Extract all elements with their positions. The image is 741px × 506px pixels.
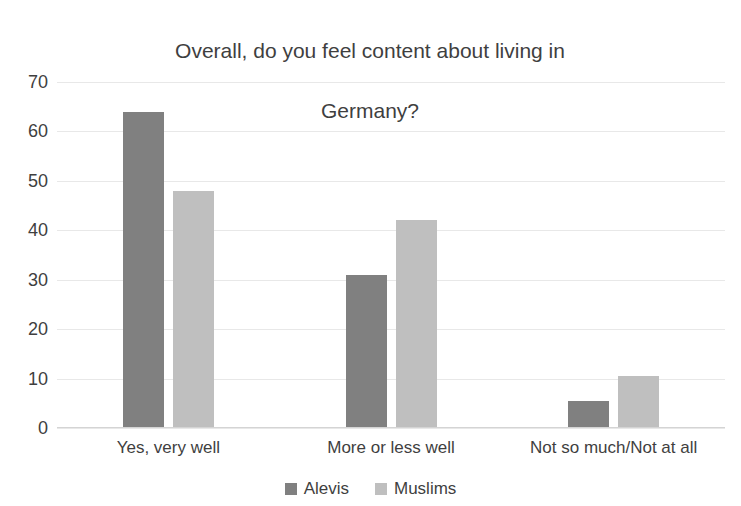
legend-swatch-icon [375,483,387,495]
y-axis-tick-label: 30 [8,271,48,289]
legend: AlevisMuslims [0,480,741,498]
y-axis-tick-label: 60 [8,122,48,140]
legend-item-muslims[interactable]: Muslims [375,480,456,498]
x-axis-line [57,427,725,428]
x-axis-label-2: Not so much/Not at all [474,438,741,458]
bar-alevis-2 [568,401,609,428]
plot-area [57,82,725,428]
gridline [57,428,725,429]
legend-label: Muslims [394,480,456,498]
y-axis: 706050403020100 [0,82,48,428]
y-axis-tick-label: 40 [8,221,48,239]
y-axis-tick-label: 0 [8,419,48,437]
y-axis-tick-label: 20 [8,320,48,338]
chart-title-line-1: Overall, do you feel content about livin… [175,39,565,62]
y-axis-tick-label: 70 [8,73,48,91]
bar-muslims-1 [396,220,437,428]
legend-item-alevis[interactable]: Alevis [285,480,349,498]
bar-muslims-0 [173,191,214,428]
bar-alevis-0 [123,112,164,428]
bar-muslims-2 [618,376,659,428]
y-axis-tick-label: 50 [8,172,48,190]
bar-alevis-1 [346,275,387,428]
legend-label: Alevis [304,480,349,498]
gridline [57,82,725,83]
bar-chart: Overall, do you feel content about livin… [0,0,741,506]
legend-swatch-icon [285,483,297,495]
y-axis-tick-label: 10 [8,370,48,388]
